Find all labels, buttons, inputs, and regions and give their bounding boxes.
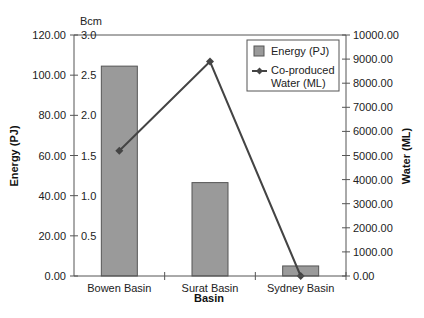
- x-axis-title: Basin: [194, 292, 224, 304]
- right-tick-label: 3000.00: [353, 198, 393, 210]
- legend-energy-label: Energy (PJ): [271, 45, 329, 57]
- right-tick-label: 6000.00: [353, 125, 393, 137]
- bcm-unit-label: Bcm: [80, 15, 102, 27]
- right-tick-label: 5000.00: [353, 150, 393, 162]
- category-label: Bowen Basin: [87, 282, 151, 294]
- bcm-tick-label: 2.5: [81, 69, 96, 81]
- left-tick-label: 0.00: [45, 270, 66, 282]
- left-tick-label: 100.00: [32, 69, 66, 81]
- right-tick-label: 7000.00: [353, 101, 393, 113]
- category-label: Sydney Basin: [267, 282, 334, 294]
- right-tick-label: 4000.00: [353, 174, 393, 186]
- legend-water-label-line1: Co-produced: [271, 64, 335, 76]
- bcm-tick-label: 1.0: [81, 190, 96, 202]
- bcm-tick-label: 3.0: [81, 29, 96, 41]
- y2-axis-title: Water (ML): [400, 127, 412, 184]
- chart: 0.0020.0040.0060.0080.00100.00120.00 0.5…: [0, 0, 424, 318]
- bcm-axis-ticks: 0.51.01.52.02.53.0: [81, 29, 96, 242]
- energy-bar: [192, 183, 228, 276]
- left-tick-label: 20.00: [38, 230, 66, 242]
- left-tick-label: 60.00: [38, 150, 66, 162]
- energy-bars: [101, 66, 318, 276]
- left-axis-ticks: 0.0020.0040.0060.0080.00100.00120.00: [32, 29, 78, 282]
- right-tick-label: 8000.00: [353, 77, 393, 89]
- energy-bar: [101, 66, 137, 276]
- right-tick-label: 1000.00: [353, 246, 393, 258]
- left-tick-label: 80.00: [38, 109, 66, 121]
- right-tick-label: 0.00: [353, 270, 374, 282]
- right-tick-label: 9000.00: [353, 53, 393, 65]
- legend-water-label-line2: Water (ML): [271, 77, 326, 89]
- legend: Energy (PJ) Co-produced Water (ML): [247, 40, 339, 91]
- bcm-tick-label: 0.5: [81, 230, 96, 242]
- legend-energy-swatch: [254, 46, 264, 56]
- right-axis-ticks: 0.001000.002000.003000.004000.005000.006…: [342, 29, 399, 282]
- left-tick-label: 40.00: [38, 190, 66, 202]
- bcm-tick-label: 2.0: [81, 109, 96, 121]
- bcm-tick-label: 1.5: [81, 150, 96, 162]
- left-tick-label: 120.00: [32, 29, 66, 41]
- right-tick-label: 2000.00: [353, 222, 393, 234]
- y-axis-title: Energy (PJ): [8, 125, 20, 186]
- right-tick-label: 10000.00: [353, 29, 399, 41]
